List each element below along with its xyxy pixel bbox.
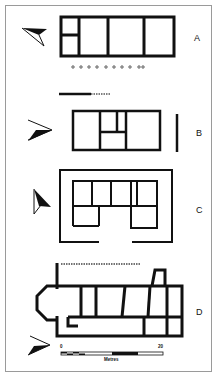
plan-label-c: C: [196, 205, 203, 215]
north-arrow-icon-d: [28, 336, 50, 355]
plan-label-b: B: [196, 128, 202, 138]
north-arrow-icon-c: [34, 189, 51, 214]
building-plans-figure: A B C: [0, 0, 219, 377]
scale-end: 20: [158, 344, 164, 349]
scale-start: 0: [60, 344, 63, 349]
plan-a: [61, 17, 174, 56]
post-holes-row: [72, 66, 144, 68]
north-arrow-icon-b: [28, 120, 52, 141]
plan-b: [73, 111, 160, 150]
plan-d: [37, 263, 182, 336]
plan-label-a: A: [194, 33, 200, 43]
plan-label-d: D: [196, 307, 203, 317]
north-arrow-icon-a: [22, 28, 47, 46]
scale-bar: 0 20 Metres: [60, 344, 164, 362]
scale-unit: Metres: [104, 357, 119, 362]
plan-c: [73, 181, 157, 228]
